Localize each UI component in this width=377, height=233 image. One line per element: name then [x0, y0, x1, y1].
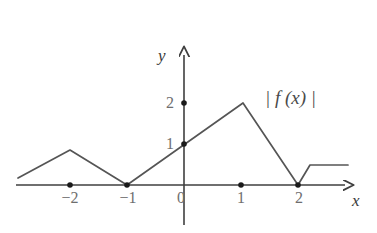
x-tick-label-minus-2: −2 [58, 190, 82, 206]
y-axis-label: y [158, 47, 166, 64]
math-graph-figure: y x −2 −1 0 1 2 1 2 | f (x) | [0, 0, 377, 233]
x-tick-label-2: 2 [290, 190, 308, 206]
point-x-minus-2 [67, 182, 73, 188]
point-x-2 [295, 182, 301, 188]
y-tick-label-1: 1 [163, 136, 177, 152]
x-tick-label-0: 0 [172, 190, 190, 206]
point-x-minus-1 [124, 182, 130, 188]
curve-annotation-abs-f: | f (x) | [265, 88, 316, 107]
y-tick-label-2: 2 [163, 95, 177, 111]
x-axis-label: x [352, 192, 360, 209]
x-tick-label-minus-1: −1 [116, 190, 140, 206]
point-y-1 [181, 141, 187, 147]
x-tick-label-1: 1 [232, 190, 250, 206]
point-y-2 [181, 100, 187, 106]
point-x-1 [238, 182, 244, 188]
